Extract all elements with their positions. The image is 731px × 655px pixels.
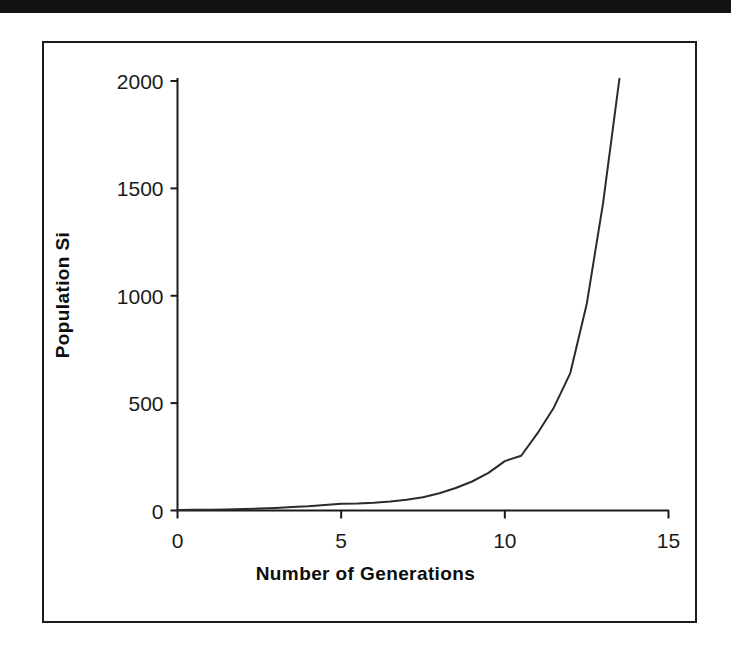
y-axis-tick-label: 1000 xyxy=(92,285,164,306)
x-axis-tick-label: 10 xyxy=(493,530,516,551)
x-axis-ticks xyxy=(178,511,669,519)
y-axis-tick-label: 2000 xyxy=(92,71,164,92)
chart-plot-area: 0500100015002000 051015 xyxy=(0,0,731,655)
x-axis-tick-label: 5 xyxy=(335,530,347,551)
x-axis-tick-label: 15 xyxy=(657,530,680,551)
y-axis-title: Population Si xyxy=(52,232,74,359)
x-axis-tick-label: 0 xyxy=(172,530,184,551)
y-axis-tick-label: 500 xyxy=(92,393,164,414)
y-axis-tick-label: 0 xyxy=(92,500,164,521)
y-axis-ticks xyxy=(171,81,178,511)
x-axis-title: Number of Generations xyxy=(0,563,731,585)
y-axis-tick-label: 1500 xyxy=(92,178,164,199)
chart-svg xyxy=(0,0,731,655)
data-series-line xyxy=(178,79,620,510)
